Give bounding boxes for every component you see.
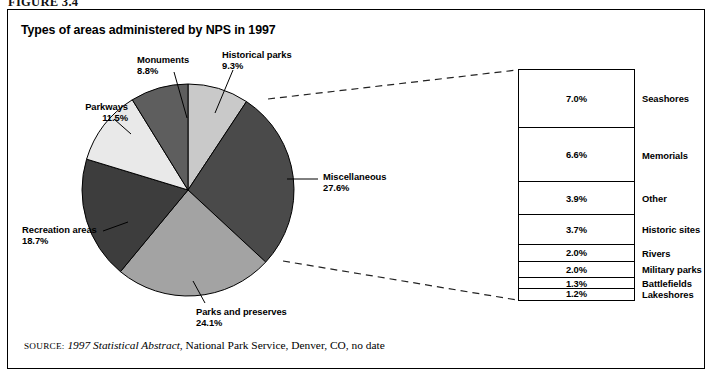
chart-title: Types of areas administered by NPS in 19… — [21, 23, 276, 37]
pie-label-monuments-name: Monuments — [137, 54, 189, 65]
pie-label-recreation-areas-name: Recreation areas — [22, 224, 97, 235]
breakout-row[interactable]: 1.2%Lakeshores — [519, 289, 634, 299]
breakout-row-value: 2.0% — [566, 264, 587, 275]
pie-label-parks-and-preserves: Parks and preserves 24.1% — [196, 306, 287, 329]
breakout-row[interactable]: 2.0%Rivers — [519, 245, 634, 262]
breakout-row[interactable]: 3.7%Historic sites — [519, 215, 634, 246]
pie-label-recreation-areas: Recreation areas 18.7% — [22, 224, 97, 247]
breakout-row[interactable]: 2.0%Military parks — [519, 262, 634, 279]
breakout-row-value: 2.0% — [566, 247, 587, 258]
breakout-row-label: Battlefields — [642, 278, 692, 289]
breakout-row[interactable]: 1.3%Battlefields — [519, 278, 634, 289]
breakout-table: 7.0%Seashores6.6%Memorials3.9%Other3.7%H… — [518, 69, 635, 301]
pie-label-parkways-name: Parkways — [85, 101, 128, 112]
pie-label-parks-and-preserves-pct: 24.1% — [196, 317, 287, 328]
breakout-row[interactable]: 6.6%Memorials — [519, 128, 634, 183]
pie-label-miscellaneous: Miscellaneous 27.6% — [323, 171, 386, 194]
breakout-row-label: Lakeshores — [642, 288, 694, 299]
source-rest: , National Park Service, Denver, CO, no … — [180, 339, 385, 351]
source-publication-title: 1997 Statistical Abstract — [67, 339, 179, 351]
breakout-row-label: Military parks — [642, 264, 702, 275]
breakout-row[interactable]: 7.0%Seashores — [519, 70, 634, 128]
breakout-row[interactable]: 3.9%Other — [519, 182, 634, 214]
pie-label-historical-parks-pct: 9.3% — [222, 60, 292, 71]
pie-label-parks-and-preserves-name: Parks and preserves — [196, 306, 287, 317]
breakout-row-value: 7.0% — [566, 93, 587, 104]
pie-label-monuments: Monuments 8.8% — [137, 54, 189, 77]
pie-label-historical-parks-name: Historical parks — [222, 49, 292, 60]
breakout-row-value: 3.7% — [566, 224, 587, 235]
breakout-row-value: 6.6% — [566, 149, 587, 160]
breakout-row-label: Rivers — [642, 247, 670, 258]
breakout-row-label: Seashores — [642, 93, 689, 104]
pie-label-monuments-pct: 8.8% — [137, 65, 189, 76]
pie-label-parkways: Parkways 11.5% — [44, 101, 128, 124]
breakout-row-value: 1.3% — [566, 278, 587, 289]
breakout-row-label: Historic sites — [642, 224, 700, 235]
pie-label-recreation-areas-pct: 18.7% — [22, 235, 97, 246]
source-prefix: SOURCE: — [24, 341, 65, 351]
pie-chart — [78, 62, 298, 310]
pie-chart-svg — [78, 62, 298, 310]
breakout-row-label: Memorials — [642, 149, 688, 160]
source-note: SOURCE: 1997 Statistical Abstract, Natio… — [24, 339, 385, 351]
pie-label-parkways-pct: 11.5% — [44, 112, 128, 123]
breakout-row-label: Other — [642, 193, 667, 204]
breakout-row-value: 1.2% — [566, 288, 587, 299]
pie-label-miscellaneous-name: Miscellaneous — [323, 171, 386, 182]
pie-label-miscellaneous-pct: 27.6% — [323, 182, 386, 193]
breakout-row-value: 3.9% — [566, 193, 587, 204]
pie-label-historical-parks: Historical parks 9.3% — [222, 49, 292, 72]
